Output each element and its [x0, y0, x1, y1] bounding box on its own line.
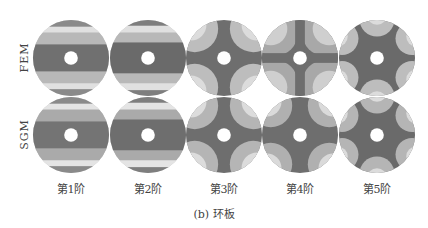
sgm-mode-5-disk — [338, 96, 416, 174]
row-label-fem: FEM — [18, 38, 31, 78]
sgm-mode-2-disk — [109, 96, 187, 174]
fem-mode-3-disk — [185, 19, 263, 97]
fem-mode-2-disk — [109, 19, 187, 97]
annular-plate-mode-shapes-figure: FEM SGM — [0, 0, 428, 228]
sgm-mode-1-disk — [32, 96, 110, 174]
fem-mode-4-disk — [261, 19, 339, 97]
fem-mode-1-disk — [32, 19, 110, 97]
column-label-mode-2: 第2阶 — [118, 180, 178, 196]
column-label-mode-3: 第3阶 — [194, 180, 254, 196]
sgm-mode-3-disk — [185, 96, 263, 174]
row-label-sgm: SGM — [18, 115, 31, 155]
column-label-mode-5: 第5阶 — [347, 180, 407, 196]
fem-mode-5-disk — [338, 19, 416, 97]
figure-caption: (b) 环板 — [0, 205, 428, 221]
sgm-mode-4-disk — [261, 96, 339, 174]
column-label-mode-1: 第1阶 — [41, 180, 101, 196]
column-label-mode-4: 第4阶 — [270, 180, 330, 196]
